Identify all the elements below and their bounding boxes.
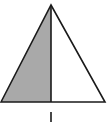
triangle-diagram	[0, 0, 111, 125]
